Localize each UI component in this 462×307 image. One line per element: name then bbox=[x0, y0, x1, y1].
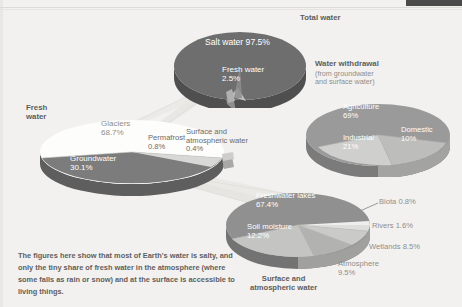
page-corner-marker bbox=[406, 0, 462, 6]
label-domestic: Domestic 10% bbox=[401, 126, 433, 143]
page-left-edge bbox=[0, 0, 3, 307]
title-surface-atmospheric: Surface and atmospheric water bbox=[250, 275, 317, 292]
label-wetlands: Wetlands 8.5% bbox=[369, 243, 420, 252]
label-agriculture: Agriculture 69% bbox=[343, 103, 379, 120]
title-total-water: Total water bbox=[300, 14, 341, 23]
label-biota: Biota 0.8% bbox=[379, 198, 416, 207]
label-soil-moisture: Soil moisture 12.2% bbox=[247, 223, 292, 240]
infographic-canvas: Salt water 97.5% Fresh water 2.5% Total … bbox=[0, 0, 462, 307]
figure-caption: The figures here show that most of Earth… bbox=[18, 250, 236, 298]
label-glaciers: Glaciers 68.7% bbox=[101, 120, 130, 138]
label-freshwater-lakes: Freshwater lakes 67.4% bbox=[256, 192, 315, 209]
subtitle-water-withdrawal: (from groundwater and surface water) bbox=[315, 70, 375, 86]
page-top-rule-secondary bbox=[0, 9, 462, 10]
title-water-withdrawal: Water withdrawal bbox=[315, 60, 379, 69]
label-groundwater: Groundwater 30.1% bbox=[70, 155, 116, 173]
pie-fresh-water-svg bbox=[36, 112, 236, 196]
label-industrial: Industrial 21% bbox=[343, 134, 374, 151]
label-salt-water: Salt water 97.5% bbox=[205, 38, 270, 48]
label-surface-atmospheric-share: Surface and atmospheric water 0.4% bbox=[186, 128, 248, 154]
label-fresh-water-slice: Fresh water 2.5% bbox=[222, 66, 264, 84]
label-rivers: Rivers 1.6% bbox=[372, 222, 413, 231]
page-top-rule bbox=[0, 7, 462, 8]
label-atmosphere: Atmosphere 9.5% bbox=[338, 260, 379, 277]
label-permafrost: Permafrost 0.8% bbox=[148, 134, 185, 151]
pie-fresh-water bbox=[36, 112, 236, 196]
